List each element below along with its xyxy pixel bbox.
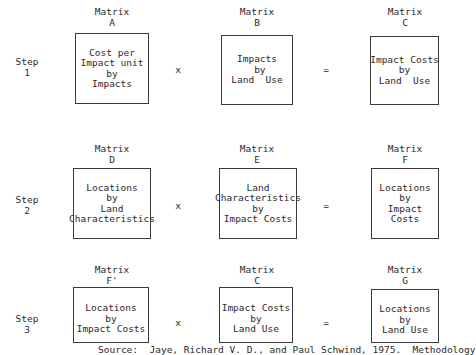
multiply-operator-step-2: x — [172, 200, 184, 211]
matrix-g-box: Locations by Land Use — [371, 289, 439, 343]
step-1-label: Step 1 — [12, 56, 42, 78]
matrix-f-label: Matrix F — [375, 143, 435, 165]
matrix-c-repeat-label: Matrix C — [227, 264, 287, 286]
matrix-f-prime-label: Matrix F' — [82, 264, 142, 286]
matrix-d-box: Locations by Land Characteristics — [73, 168, 151, 239]
step-3-label: Step 3 — [12, 313, 42, 335]
matrix-b-text: Impacts by Land Use — [231, 54, 282, 86]
matrix-c-label: Matrix C — [375, 6, 435, 28]
matrix-e-box: Land Characteristics by Impact Costs — [219, 168, 297, 239]
matrix-d-text: Locations by Land Characteristics — [69, 183, 155, 225]
matrix-d-label: Matrix D — [82, 143, 142, 165]
matrix-e-text: Land Characteristics by Impact Costs — [215, 183, 301, 225]
multiply-operator-step-1: x — [172, 64, 184, 75]
matrix-g-label: Matrix G — [375, 264, 435, 286]
step-2-label: Step 2 — [12, 194, 42, 216]
matrix-f-box: Locations by Impact Costs — [371, 168, 439, 239]
matrix-b-label: Matrix B — [227, 6, 287, 28]
equals-operator-step-3: = — [320, 317, 332, 328]
source-citation: Source: Jaye, Richard V. D., and Paul Sc… — [98, 344, 476, 355]
matrix-c-text: Impact Costs by Land Use — [370, 55, 439, 87]
matrix-c-box: Impact Costs by Land Use — [370, 36, 439, 105]
matrix-a-label: Matrix A — [82, 6, 142, 28]
multiply-operator-step-3: x — [172, 317, 184, 328]
matrix-f-prime-text: Locations by Impact Costs — [77, 295, 146, 335]
matrix-c-repeat-text: Impact Costs by Land Use — [222, 295, 291, 335]
matrix-g-text: Locations by Land Use — [379, 296, 430, 336]
matrix-f-text: Locations by Impact Costs — [379, 183, 430, 225]
equals-operator-step-2: = — [320, 200, 332, 211]
matrix-f-prime-box: Locations by Impact Costs — [73, 287, 149, 343]
matrix-e-label: Matrix E — [227, 143, 287, 165]
equals-operator-step-1: = — [320, 64, 332, 75]
matrix-a-text: Cost per Impact unit by Impacts — [81, 48, 144, 90]
matrix-c-repeat-box: Impact Costs by Land Use — [219, 287, 293, 343]
matrix-a-box: Cost per Impact unit by Impacts — [75, 33, 149, 104]
matrix-b-box: Impacts by Land Use — [221, 35, 293, 105]
